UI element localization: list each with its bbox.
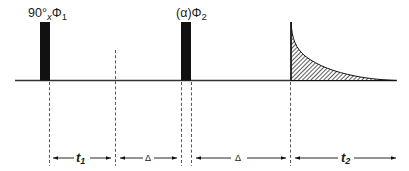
- fid-signal: [291, 22, 396, 81]
- pulse-sequence-diagram: 90°xΦ1 (α)Φ2 t1 Δ Δ t2: [0, 0, 409, 171]
- pulse-2-label: (α)Φ2: [176, 6, 207, 22]
- interval-delta1-label: Δ: [145, 153, 151, 163]
- interval-delta2-label: Δ: [235, 153, 241, 163]
- timing-markers: [50, 50, 291, 166]
- interval-t2-label: t2: [341, 150, 350, 166]
- pulse-1-bar: [40, 22, 50, 81]
- pulse-2-bar: [181, 22, 191, 81]
- pulse-1-label: 90°xΦ1: [28, 6, 67, 22]
- interval-t1-label: t1: [76, 150, 85, 166]
